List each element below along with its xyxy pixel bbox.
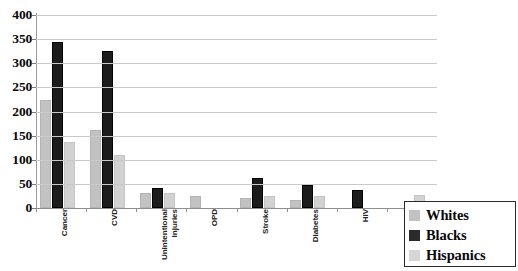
bar (252, 178, 263, 208)
bar (152, 188, 163, 208)
x-axis: CancerCVDUnintentional InjuriesOPDStroke… (36, 209, 437, 271)
bar (140, 193, 151, 208)
y-tick-label: 50 (19, 177, 32, 191)
gridline (36, 136, 437, 137)
legend-item-label: Hispanics (426, 248, 486, 263)
legend-item[interactable]: Whites (409, 205, 512, 225)
gridline (36, 15, 437, 16)
legend-item-label: Blacks (426, 228, 467, 243)
gridline (36, 112, 437, 113)
y-axis: 050100150200250300350400 (0, 0, 34, 215)
legend-swatch-icon (409, 230, 420, 241)
y-tick-label: 200 (12, 105, 32, 119)
bar (190, 196, 201, 208)
x-tick-label: CVD (110, 209, 120, 271)
y-tick-mark (32, 39, 36, 40)
bar (302, 185, 313, 208)
y-tick-mark (32, 112, 36, 113)
y-tick-mark (32, 63, 36, 64)
gridline (36, 39, 437, 40)
bar-chart: 050100150200250300350400 CancerCVDUninte… (0, 0, 518, 271)
bar (40, 100, 51, 208)
plot-area (36, 15, 437, 208)
x-tick-label: Diabetes (311, 209, 321, 271)
gridline (36, 184, 437, 185)
y-tick-mark (32, 184, 36, 185)
y-tick-label: 150 (12, 129, 32, 143)
y-tick-mark (32, 160, 36, 161)
y-tick-label: 350 (12, 32, 32, 46)
chart-legend: WhitesBlacksHispanics (404, 201, 516, 267)
bar (352, 190, 363, 208)
bar (314, 196, 325, 208)
gridline (36, 160, 437, 161)
y-tick-mark (32, 15, 36, 16)
bar (114, 155, 125, 208)
y-tick-mark (32, 136, 36, 137)
y-tick-label: 100 (12, 153, 32, 167)
legend-item[interactable]: Blacks (409, 225, 512, 245)
gridline (36, 63, 437, 64)
y-tick-mark (32, 87, 36, 88)
bar (240, 198, 251, 208)
legend-item[interactable]: Hispanics (409, 245, 512, 265)
bar (290, 200, 301, 208)
legend-swatch-icon (409, 250, 420, 261)
bar (264, 196, 275, 208)
gridline (36, 87, 437, 88)
x-tick-label: Cancer (60, 209, 70, 271)
bar (90, 130, 101, 208)
legend-swatch-icon (409, 210, 420, 221)
x-tick-label: OPD (210, 209, 220, 271)
x-tick-label: HIV (361, 209, 371, 271)
x-tick-label: Stroke (261, 209, 271, 271)
bar (64, 142, 75, 208)
y-tick-label: 300 (12, 57, 32, 71)
y-tick-label: 250 (12, 81, 32, 95)
bar (164, 193, 175, 208)
legend-item-label: Whites (426, 208, 469, 223)
x-tick-label: Unintentional Injuries (160, 209, 179, 271)
y-tick-label: 400 (12, 8, 32, 22)
